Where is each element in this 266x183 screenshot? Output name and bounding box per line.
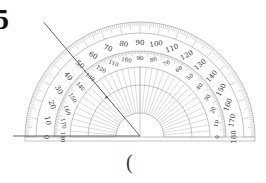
inner-tick — [118, 54, 120, 60]
inner-scale-label: 90 — [137, 55, 144, 61]
outer-tick — [182, 30, 183, 34]
outer-tick — [29, 105, 33, 106]
protractor-base — [25, 137, 255, 141]
outer-tick — [171, 26, 172, 30]
outer-tick — [192, 35, 194, 39]
outer-tick — [90, 34, 92, 38]
outer-tick — [55, 60, 58, 63]
outer-tick — [81, 38, 83, 41]
inner-tick — [119, 54, 120, 57]
outer-tick — [230, 69, 233, 71]
outer-tick — [149, 22, 150, 29]
outer-tick — [246, 101, 250, 102]
inner-tick — [69, 89, 71, 91]
outer-tick — [192, 37, 198, 47]
inner-tick — [56, 121, 59, 122]
inner-tick — [213, 95, 216, 96]
radial-line — [91, 88, 124, 121]
inner-tick — [189, 67, 191, 69]
radial-line — [77, 107, 119, 126]
outer-tick — [249, 115, 253, 116]
outer-tick — [28, 113, 32, 114]
inner-tick — [56, 118, 59, 119]
outer-tick — [29, 107, 36, 109]
inner-tick — [156, 53, 157, 56]
inner-tick — [203, 81, 205, 83]
inner-tick — [93, 65, 95, 68]
outer-tick — [246, 103, 250, 104]
outer-tick — [57, 57, 60, 60]
outer-tick — [97, 30, 98, 34]
inner-tick — [133, 51, 134, 57]
outer-tick — [210, 48, 213, 51]
outer-tick — [77, 41, 79, 44]
inner-tick — [215, 99, 218, 100]
inner-tick — [183, 63, 185, 66]
outer-tick — [245, 100, 249, 101]
inner-tick — [70, 86, 72, 88]
inner-tick — [194, 72, 196, 74]
outer-tick — [247, 105, 251, 106]
outer-tick — [208, 46, 210, 49]
outer-tick — [71, 45, 73, 48]
inner-scale-label: 10 — [213, 119, 220, 127]
outer-tick — [108, 26, 109, 30]
inner-scale-label: 70 — [162, 59, 171, 67]
radial-line — [161, 102, 201, 125]
outer-scale-label: 170 — [227, 113, 237, 128]
inner-tick — [217, 106, 220, 107]
radial-line — [110, 74, 129, 116]
outer-tick — [213, 50, 216, 53]
radial-line — [150, 74, 169, 116]
outer-tick — [241, 90, 245, 92]
outer-tick — [172, 27, 173, 31]
outer-tick — [34, 92, 38, 94]
outer-tick — [42, 76, 45, 78]
outer-tick — [86, 35, 88, 39]
inner-tick — [112, 56, 113, 59]
inner-tick — [221, 121, 224, 122]
outer-tick — [228, 71, 234, 75]
outer-tick — [40, 80, 50, 86]
inner-scale-label: 150 — [68, 92, 79, 105]
outer-tick — [95, 31, 97, 35]
inner-tick — [159, 53, 160, 56]
inner-tick — [198, 75, 200, 77]
inner-tick — [207, 86, 209, 88]
inner-tick — [217, 105, 220, 106]
outer-tick — [250, 119, 254, 120]
outer-tick — [242, 117, 253, 119]
radial-line — [79, 102, 119, 125]
inner-tick — [220, 113, 223, 114]
inner-tick — [216, 103, 219, 104]
answer-parenthesis: ( — [126, 152, 133, 172]
inner-tick — [206, 88, 211, 91]
outer-tick — [242, 92, 246, 94]
inner-tick — [185, 65, 187, 68]
inner-tick — [70, 88, 75, 91]
outer-tick — [224, 62, 227, 65]
inner-tick — [186, 66, 188, 68]
outer-tick — [122, 23, 123, 27]
inner-tick — [184, 64, 186, 67]
outer-tick — [157, 23, 158, 27]
inner-tick — [161, 54, 163, 60]
outer-tick — [99, 30, 100, 34]
outer-tick — [33, 96, 37, 97]
inner-tick — [202, 79, 204, 81]
inner-tick — [105, 58, 106, 61]
outer-scale-label: 180 — [230, 130, 238, 143]
inner-tick — [160, 54, 161, 57]
outer-tick — [49, 66, 52, 68]
outer-tick — [35, 90, 39, 92]
inner-tick — [205, 84, 207, 86]
inner-tick — [80, 75, 82, 77]
inner-scale-label: 180 — [60, 132, 66, 143]
inner-scale-label: 100 — [121, 56, 133, 64]
outer-tick — [185, 32, 187, 36]
inner-tick — [116, 54, 117, 57]
inner-scale-label: 60 — [174, 64, 184, 73]
inner-tick — [172, 58, 173, 61]
outer-tick — [47, 69, 50, 71]
inner-tick — [221, 116, 224, 117]
